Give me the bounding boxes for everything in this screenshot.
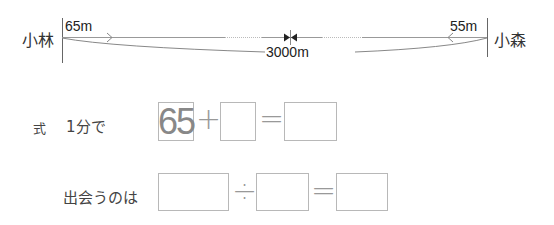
total-distance-curve xyxy=(62,38,265,52)
equation1-operand2-box[interactable] xyxy=(220,102,256,141)
formula-prefix: 式 xyxy=(33,118,46,137)
equation2-label: 出会うのは xyxy=(63,186,138,207)
distance-diagram xyxy=(0,0,554,80)
left-speed-label: 65m xyxy=(65,18,92,34)
right-person-label: 小森 xyxy=(494,27,526,51)
equals-sign: = xyxy=(259,104,284,134)
equation2-operand2-box[interactable] xyxy=(256,173,309,211)
total-distance-label: 3000m xyxy=(266,44,309,60)
left-person-label: 小林 xyxy=(22,27,54,51)
meeting-point-icon xyxy=(284,30,297,45)
given-value-box: 65 xyxy=(158,102,194,141)
equation1-result-box[interactable] xyxy=(284,102,337,141)
equation1-label: 1分で xyxy=(66,115,106,136)
right-speed-label: 55m xyxy=(450,18,477,34)
equation2-operand1-box[interactable] xyxy=(158,173,229,211)
plus-sign: + xyxy=(196,104,221,134)
divide-sign: ÷ xyxy=(232,176,257,206)
equation2-result-box[interactable] xyxy=(336,173,388,211)
equals-sign-2: = xyxy=(311,176,336,206)
